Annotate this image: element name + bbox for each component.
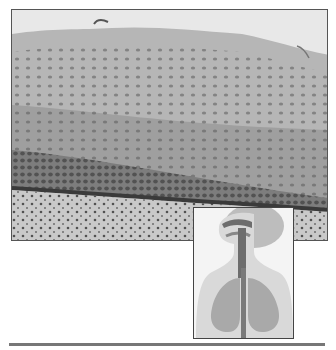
horizontal-rule xyxy=(9,343,325,346)
respiratory-diagram-inset xyxy=(193,207,294,339)
respiratory-system-icon xyxy=(194,208,294,339)
